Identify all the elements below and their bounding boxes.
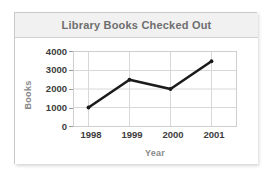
- x-tick-label: 2001: [197, 130, 231, 140]
- y-tick-label: 2000: [37, 84, 67, 94]
- chart-title-bar: Library Books Checked Out: [15, 13, 258, 38]
- y-axis-tick-labels: 4000 3000 2000 1000 0: [37, 51, 67, 127]
- data-point-2001: [210, 59, 214, 63]
- y-tick-label: 4000: [37, 47, 67, 57]
- data-series-books: [87, 59, 214, 109]
- y-tick-label: 0: [37, 122, 67, 132]
- plot-area: [73, 51, 237, 127]
- data-point-1998: [87, 106, 91, 110]
- x-tick-label: 2000: [156, 130, 190, 140]
- y-axis-title: Books: [23, 75, 33, 115]
- line-chart-svg: [74, 52, 236, 126]
- chart-card: Library Books Checked Out Books 4000 300…: [14, 12, 257, 164]
- chart-screenshot: Library Books Checked Out Books 4000 300…: [0, 0, 273, 174]
- data-point-1999: [128, 78, 132, 82]
- y-tick-label: 1000: [37, 103, 67, 113]
- x-tick-label: 1998: [74, 130, 108, 140]
- page-title: Library Books Checked Out: [62, 19, 212, 31]
- x-axis-tick-labels: 1998 1999 2000 2001: [73, 130, 248, 144]
- y-tick-label: 3000: [37, 65, 67, 75]
- chart-plot-region: Books 4000 3000 2000 1000 0: [15, 38, 258, 164]
- x-tick-label: 1999: [115, 130, 149, 140]
- x-axis-title: Year: [73, 148, 237, 158]
- data-point-2000: [169, 87, 173, 91]
